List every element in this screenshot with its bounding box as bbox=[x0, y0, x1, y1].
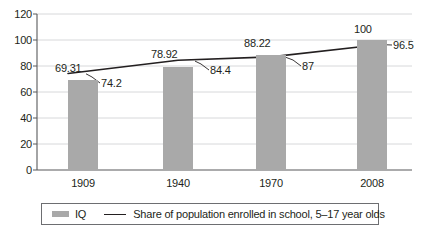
plot-area: 120 100 80 60 40 20 0 69.31 78.92 88.22 … bbox=[0, 0, 423, 196]
leader-lines bbox=[86, 45, 392, 83]
legend-bar-swatch-icon bbox=[52, 211, 69, 217]
legend-item-iq[interactable]: IQ bbox=[52, 209, 86, 220]
line-label-1909: 74.2 bbox=[101, 78, 122, 89]
bar-1909 bbox=[68, 80, 98, 170]
bar-label-2008: 100 bbox=[354, 24, 372, 35]
x-tick-2008: 2008 bbox=[349, 178, 395, 189]
y-tick-60: 60 bbox=[8, 87, 32, 98]
legend-line-swatch-icon bbox=[104, 214, 126, 215]
bar-label-1909: 69.31 bbox=[55, 63, 82, 74]
line-label-1970: 87 bbox=[302, 61, 314, 72]
y-tick-120: 120 bbox=[8, 9, 32, 20]
x-tick-1970: 1970 bbox=[248, 178, 294, 189]
y-tick-80: 80 bbox=[8, 61, 32, 72]
y-tick-marks bbox=[33, 14, 37, 170]
x-tick-1940: 1940 bbox=[155, 178, 201, 189]
chart-figure: 120 100 80 60 40 20 0 69.31 78.92 88.22 … bbox=[0, 0, 423, 237]
y-tick-100: 100 bbox=[8, 35, 32, 46]
legend-label-share: Share of population enrolled in school, … bbox=[133, 209, 385, 220]
y-tick-40: 40 bbox=[8, 113, 32, 124]
bar-1970 bbox=[256, 55, 286, 170]
legend-item-share[interactable]: Share of population enrolled in school, … bbox=[104, 209, 385, 220]
bar-label-1940: 78.92 bbox=[151, 49, 178, 60]
legend-label-iq: IQ bbox=[75, 209, 86, 220]
line-label-1940: 84.4 bbox=[210, 65, 231, 76]
line-label-2008: 96.5 bbox=[393, 40, 414, 51]
bar-2008 bbox=[357, 40, 387, 170]
y-axis-labels: 120 100 80 60 40 20 0 bbox=[4, 0, 32, 196]
bar-label-1970: 88.22 bbox=[244, 38, 271, 49]
x-tick-1909: 1909 bbox=[60, 178, 106, 189]
y-tick-0: 0 bbox=[8, 165, 32, 176]
y-tick-20: 20 bbox=[8, 139, 32, 150]
chart-legend: IQ Share of population enrolled in schoo… bbox=[41, 203, 379, 225]
bar-1940 bbox=[163, 67, 193, 170]
